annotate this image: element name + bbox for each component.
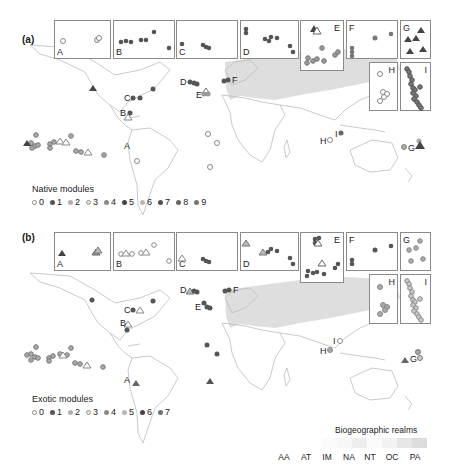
legend-item-4: 4 — [104, 407, 116, 417]
dot-icon — [104, 410, 109, 415]
realm-swatch-na — [367, 438, 382, 448]
map-label-a: A — [124, 141, 130, 151]
legend-item-3: 3 — [86, 407, 98, 417]
map-label-b: B — [120, 318, 126, 328]
map-label-i: I — [333, 336, 336, 346]
map-label-h: H — [320, 136, 327, 146]
map-label-c: C — [124, 305, 131, 315]
dot-icon — [104, 200, 109, 205]
realm-label-im: IM — [316, 452, 338, 462]
legend-title-native: Native modules — [32, 184, 94, 194]
dot-icon — [122, 200, 127, 205]
dot-icon — [86, 410, 91, 415]
legend-native: 0 1 2 3 4 5 6 7 8 9 — [32, 197, 206, 207]
dot-icon — [140, 410, 145, 415]
legend-item-7: 7 — [158, 407, 170, 417]
dot-icon — [68, 200, 73, 205]
realm-label-pa: PA — [404, 452, 426, 462]
dot-icon — [158, 200, 163, 205]
map-label-a: A — [124, 375, 130, 385]
realm-swatch-im — [352, 438, 367, 448]
realms-title: Biogeographic realms — [335, 425, 417, 435]
map-label-d: D — [180, 285, 187, 295]
dot-icon — [50, 410, 55, 415]
map-label-f: F — [233, 285, 239, 295]
dot-icon — [86, 200, 91, 205]
realm-swatch-at — [337, 438, 352, 448]
realm-label-at: AT — [296, 452, 316, 462]
legend-item-5: 5 — [122, 197, 134, 207]
legend-item-9: 9 — [194, 197, 206, 207]
legend-title-exotic: Exotic modules — [32, 394, 93, 404]
dot-icon — [32, 200, 37, 205]
legend-item-4: 4 — [104, 197, 116, 207]
map-label-b: B — [120, 108, 126, 118]
map-label-e: E — [196, 90, 202, 100]
map-label-e: E — [195, 302, 201, 312]
map-label-i: I — [335, 129, 338, 139]
legend-item-2: 2 — [68, 407, 80, 417]
realms-labels: AA AT IM NA NT OC PA — [272, 452, 426, 462]
legend-item-7: 7 — [158, 197, 170, 207]
realm-label-nt: NT — [360, 452, 380, 462]
realm-swatch-aa — [322, 438, 337, 448]
map-label-d: D — [180, 77, 187, 87]
realm-label-oc: OC — [380, 452, 404, 462]
legend-item-5: 5 — [122, 407, 134, 417]
map-label-g: G — [408, 143, 415, 153]
legend-item-8: 8 — [176, 197, 188, 207]
dot-icon — [140, 200, 145, 205]
legend-item-6: 6 — [140, 197, 152, 207]
realm-swatch-pa — [412, 438, 427, 448]
realm-label-na: NA — [338, 452, 360, 462]
map-label-f: F — [232, 75, 238, 85]
realms-color-bar — [322, 438, 427, 448]
panel-native-modules: (a) A B C D E F G — [0, 0, 452, 225]
map-label-c: C — [124, 93, 131, 103]
panel-exotic-modules: (b) A B C D E F — [0, 228, 452, 467]
dot-icon — [32, 410, 37, 415]
legend-item-2: 2 — [68, 197, 80, 207]
legend-item-0: 0 — [32, 197, 44, 207]
legend-item-1: 1 — [50, 197, 62, 207]
legend-item-0: 0 — [32, 407, 44, 417]
dot-icon — [176, 200, 181, 205]
realm-swatch-oc — [397, 438, 412, 448]
map-label-h: H — [320, 346, 327, 356]
legend-exotic: 0 1 2 3 4 5 6 7 — [32, 407, 170, 417]
map-label-g: G — [410, 354, 417, 364]
dot-icon — [194, 200, 199, 205]
legend-item-6: 6 — [140, 407, 152, 417]
dot-icon — [50, 200, 55, 205]
dot-icon — [158, 410, 163, 415]
legend-item-3: 3 — [86, 197, 98, 207]
realm-swatch-nt — [382, 438, 397, 448]
realm-label-aa: AA — [272, 452, 296, 462]
dot-icon — [122, 410, 127, 415]
legend-item-1: 1 — [50, 407, 62, 417]
dot-icon — [68, 410, 73, 415]
